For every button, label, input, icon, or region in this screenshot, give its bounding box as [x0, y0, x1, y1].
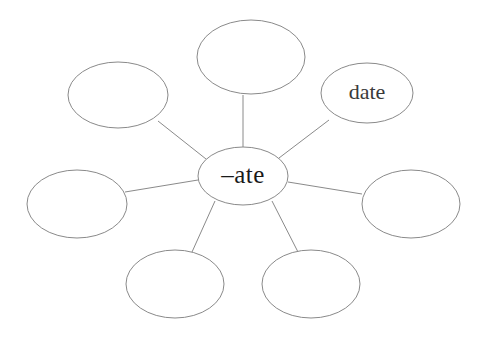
connector-bottom-right [272, 201, 298, 252]
node-ellipse-left[interactable] [27, 170, 127, 238]
node-label-top-right: date [349, 79, 386, 104]
node-ellipse-right[interactable] [362, 170, 460, 238]
connector-bottom-left [192, 201, 215, 252]
node-ellipse-bottom-left[interactable] [126, 250, 224, 318]
word-web-diagram: date –ate [0, 0, 480, 338]
connector-top-left [158, 121, 206, 159]
center-label: –ate [220, 161, 265, 188]
connector-top-right [279, 120, 329, 158]
node-ellipse-bottom-right[interactable] [262, 250, 360, 318]
node-ellipse-top-left[interactable] [68, 62, 168, 128]
connector-right [288, 182, 362, 194]
connector-left [125, 180, 198, 192]
node-ellipse-top[interactable] [197, 20, 305, 94]
diagram-canvas: date –ate [0, 0, 480, 338]
